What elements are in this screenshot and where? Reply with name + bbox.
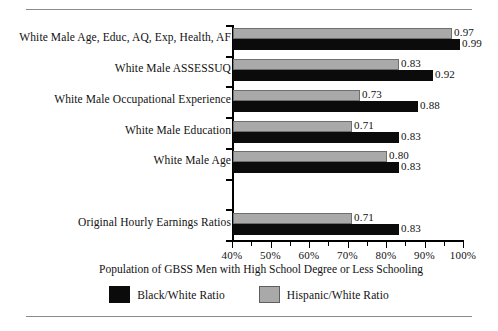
category-label: White Male Age, Educ, AQ, Exp, Health, A… [19, 31, 231, 43]
x-axis-major-tick [425, 242, 426, 248]
x-axis-minor-tick [444, 242, 445, 246]
legend-swatch-black [109, 286, 130, 303]
bar-value-label: 0.83 [401, 130, 421, 142]
bar-value-label: 0.83 [401, 57, 421, 69]
bar-value-label: 0.92 [435, 68, 455, 80]
x-axis-minor-tick [251, 242, 252, 246]
bar-hispanic-white [233, 28, 452, 39]
bar-hispanic-white [233, 59, 399, 70]
bar-hispanic-white [233, 151, 387, 162]
x-axis-major-tick [232, 242, 233, 248]
legend-item: Black/White Ratio [109, 286, 225, 303]
bar-value-label: 0.99 [462, 37, 482, 49]
legend-label: Hispanic/White Ratio [287, 289, 389, 301]
bar-value-label: 0.73 [362, 88, 382, 100]
x-axis-major-tick [463, 242, 464, 248]
y-axis-tick [226, 117, 233, 119]
legend-item: Hispanic/White Ratio [259, 286, 389, 303]
x-axis-major-tick [348, 242, 349, 248]
bar-hispanic-white [233, 121, 352, 132]
category-label: White Male Age [154, 154, 231, 166]
bar-chart-figure: White Male Age, Educ, AQ, Exp, Health, A… [0, 0, 498, 331]
bar-black-white [233, 224, 399, 235]
x-axis-tick-label: 80% [366, 249, 406, 261]
y-axis-tick [226, 240, 233, 242]
x-axis-minor-tick [328, 242, 329, 246]
x-axis-major-tick [386, 242, 387, 248]
bar-value-label: 0.83 [401, 222, 421, 234]
x-axis-minor-tick [290, 242, 291, 246]
bar-value-label: 0.71 [354, 211, 374, 223]
category-label: White Male ASSESSUQ [115, 62, 231, 74]
x-axis-tick-label: 40% [212, 249, 252, 261]
category-label: White Male Occupational Experience [54, 93, 231, 105]
y-axis-tick [226, 56, 233, 58]
bar-value-label: 0.71 [354, 119, 374, 131]
bar-value-label: 0.83 [401, 160, 421, 172]
x-axis-tick-label: 50% [251, 249, 291, 261]
x-axis-tick-label: 60% [289, 249, 329, 261]
x-axis-title: Population of GBSS Men with High School … [0, 263, 498, 275]
bar-value-label: 0.88 [420, 99, 440, 111]
bar-black-white [233, 132, 399, 143]
bar-hispanic-white [233, 90, 360, 101]
legend-swatch-grey [259, 286, 280, 303]
y-axis-tick [226, 86, 233, 88]
x-axis-minor-tick [405, 242, 406, 246]
y-axis-tick [226, 179, 233, 181]
bar-black-white [233, 39, 460, 50]
y-axis-tick [226, 209, 233, 211]
bar-black-white [233, 101, 418, 112]
category-label: Original Hourly Earnings Ratios [78, 216, 231, 228]
x-axis-tick-label: 90% [405, 249, 445, 261]
x-axis-minor-tick [367, 242, 368, 246]
y-axis-tick [226, 25, 233, 27]
chart-legend: Black/White RatioHispanic/White Ratio [0, 286, 498, 303]
x-axis-tick-label: 70% [328, 249, 368, 261]
bar-black-white [233, 70, 433, 81]
bar-hispanic-white [233, 213, 352, 224]
x-axis-title-text: Population of GBSS Men with High School … [75, 263, 423, 275]
y-axis-tick [226, 148, 233, 150]
legend-label: Black/White Ratio [137, 289, 225, 301]
category-label: White Male Education [125, 124, 231, 136]
bar-black-white [233, 162, 399, 173]
x-axis-major-tick [271, 242, 272, 248]
x-axis-major-tick [309, 242, 310, 248]
x-axis-tick-label: 100% [443, 249, 483, 261]
